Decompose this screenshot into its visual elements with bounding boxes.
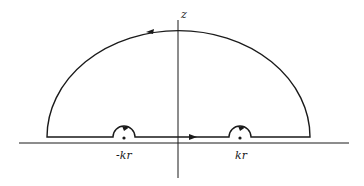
pole-label-positive: kr <box>235 149 248 162</box>
pole-dot-negative <box>122 136 125 139</box>
arrow-baseline-icon <box>189 134 197 140</box>
pole-label-negative: -kr <box>116 149 132 162</box>
z-axis-label: z <box>180 8 187 21</box>
pole-dot-positive <box>238 136 241 139</box>
contour-diagram: z -kr kr <box>0 0 364 186</box>
